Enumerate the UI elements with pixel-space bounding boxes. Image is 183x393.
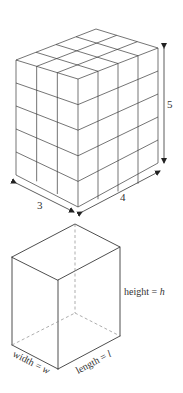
width-label: 3 xyxy=(37,199,43,211)
right-face xyxy=(78,48,158,207)
prism-top-face xyxy=(12,224,120,280)
length-label: 4 xyxy=(120,191,126,203)
height-label: 5 xyxy=(167,98,173,110)
width-formula-label: width = w xyxy=(11,348,52,376)
width-dimension-arrow xyxy=(16,183,74,212)
height-formula-label: height = h xyxy=(124,286,165,297)
general-prism: height = h width = w length = l xyxy=(11,224,165,376)
left-face xyxy=(16,60,78,207)
length-formula-label: length = l xyxy=(74,348,113,376)
unit-cube-prism: 3 4 5 xyxy=(16,29,173,212)
hidden-edge-right xyxy=(75,313,120,336)
top-face xyxy=(16,29,158,79)
hidden-edge-left xyxy=(12,313,75,345)
diagram-canvas: 3 4 5 height = h width = w length = l xyxy=(0,0,183,393)
